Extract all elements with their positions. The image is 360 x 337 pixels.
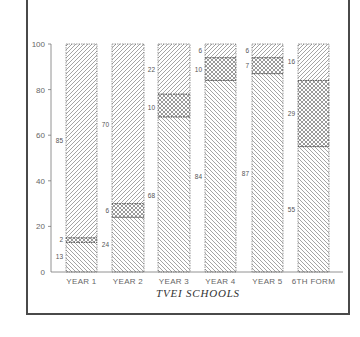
- segment-label: 87: [242, 170, 250, 177]
- segment-label: 10: [148, 104, 156, 111]
- segment-label: 29: [288, 110, 296, 117]
- segment-label: 2: [59, 236, 63, 243]
- bar-year-4: 84 10 6: [195, 44, 236, 272]
- x-axis-title: TVEI SCHOOLS: [156, 287, 240, 299]
- bar-6th-form: 55 29 16: [288, 44, 329, 272]
- stacked-bar-chart: 0 20 40 60 80 100 13 2 85 24 6 70 68 10 …: [0, 0, 360, 337]
- x-category-labels: YEAR 1 YEAR 2 YEAR 3 YEAR 4 YEAR 5 6TH F…: [66, 277, 335, 286]
- segment-label: 7: [245, 62, 249, 69]
- y-tick-label: 20: [36, 222, 45, 231]
- x-tick-label: YEAR 2: [113, 277, 144, 286]
- segment-label: 68: [148, 192, 156, 199]
- bar-year-3: 68 10 22: [148, 44, 190, 272]
- y-tick-label: 80: [36, 86, 45, 95]
- x-tick-label: 6TH FORM: [292, 277, 335, 286]
- bar-year-5: 87 7 6: [242, 44, 283, 272]
- segment-label: 16: [288, 58, 296, 65]
- bar-year-2: 24 6 70: [102, 44, 144, 272]
- x-tick-label: YEAR 4: [205, 277, 236, 286]
- segment-label: 84: [195, 173, 203, 180]
- x-tick-label: YEAR 1: [66, 277, 97, 286]
- x-tick-label: YEAR 3: [159, 277, 190, 286]
- x-tick-label: YEAR 5: [252, 277, 283, 286]
- segment-label: 22: [148, 66, 156, 73]
- segment-label: 13: [56, 253, 64, 260]
- bar-year-1: 13 2 85: [56, 44, 97, 272]
- segment-label: 85: [56, 137, 64, 144]
- y-tick-label: 100: [32, 40, 46, 49]
- segment-label: 10: [195, 66, 203, 73]
- segment-label: 6: [105, 207, 109, 214]
- y-tick-label: 40: [36, 177, 45, 186]
- segment-label: 55: [288, 206, 296, 213]
- segment-label: 6: [198, 47, 202, 54]
- segment-label: 70: [102, 121, 110, 128]
- segment-label: 6: [245, 47, 249, 54]
- y-tick-label: 0: [41, 268, 46, 277]
- y-tick-label: 60: [36, 131, 45, 140]
- segment-label: 24: [102, 241, 110, 248]
- y-axis: 0 20 40 60 80 100: [32, 40, 51, 277]
